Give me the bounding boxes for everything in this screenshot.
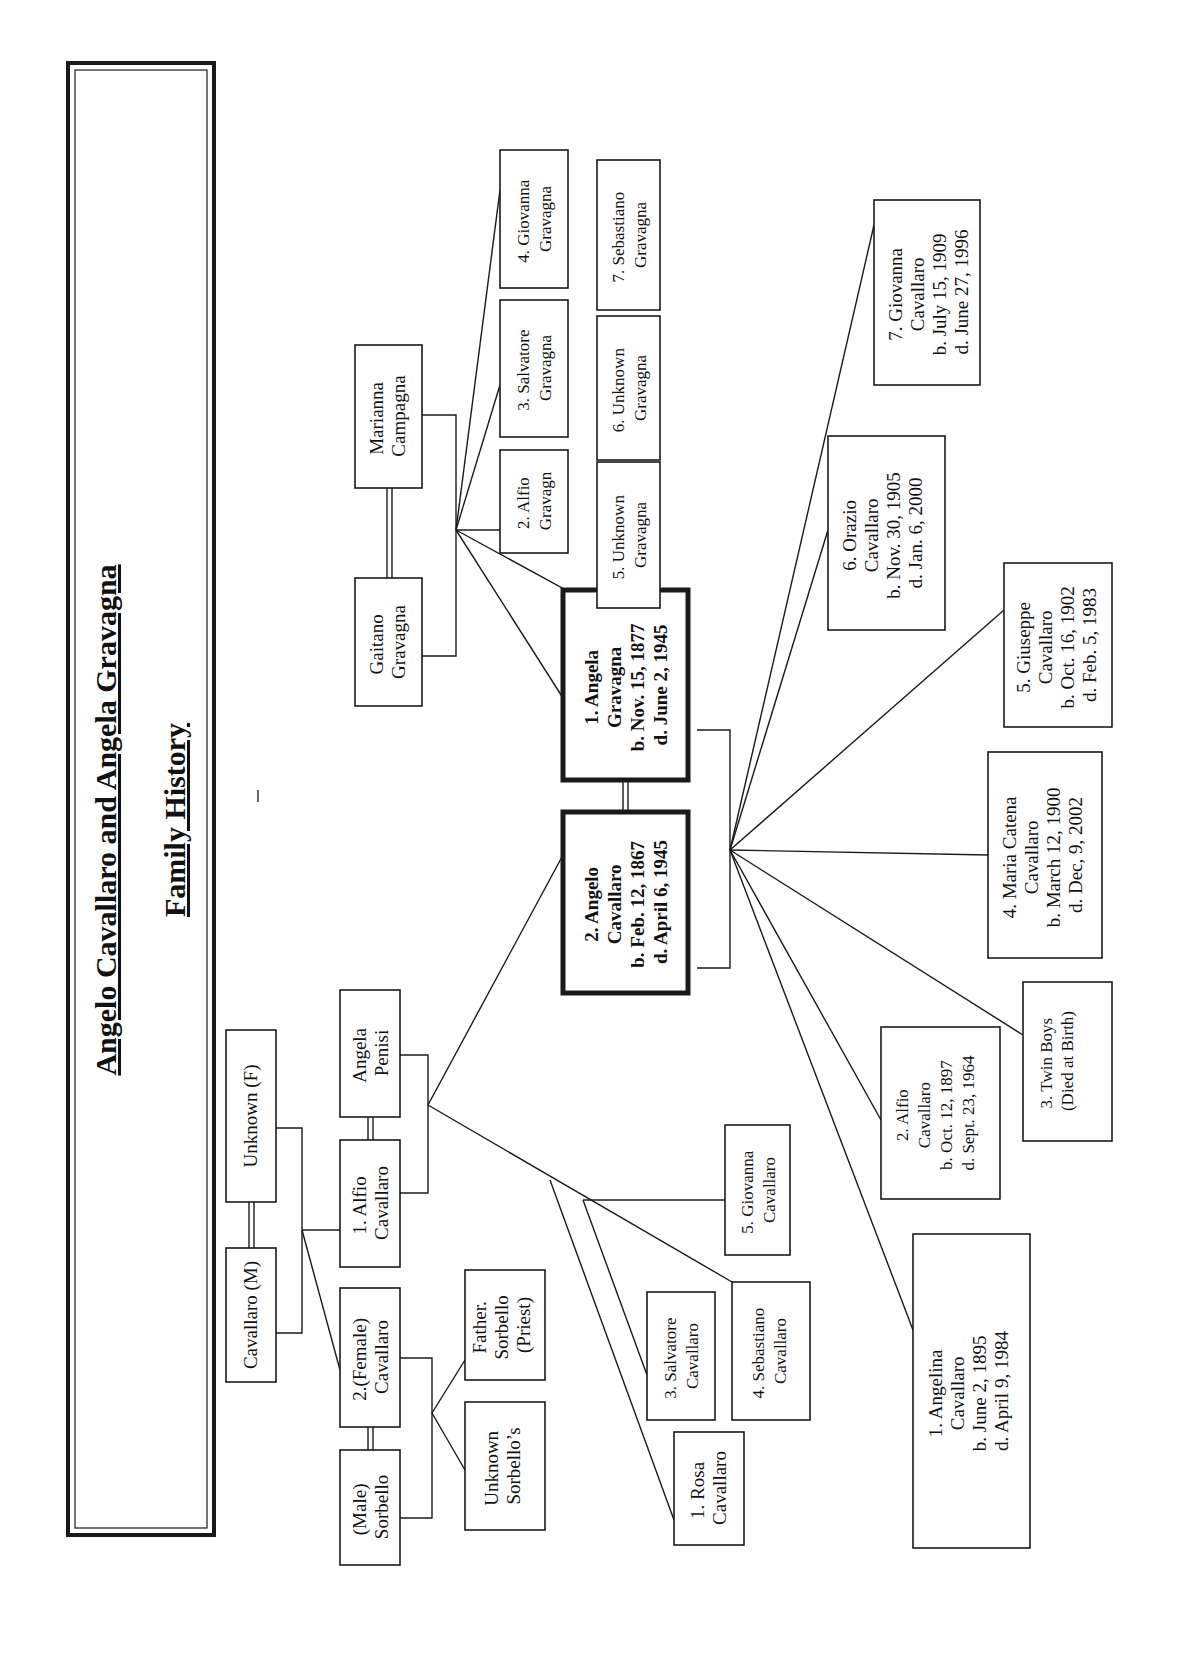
person-angelo-cavallaro[interactable]: 2. Angelo Cavallaro b. Feb. 12, 1867 d. … bbox=[563, 812, 688, 993]
person-giuseppe-cavallaro[interactable]: 5. Giuseppe Cavallaro b. Oct. 16, 1902 d… bbox=[1004, 563, 1112, 727]
person-alfio-cavallaro-jr[interactable]: 2. Alfio Cavallaro b. Oct. 12, 1897 d. S… bbox=[881, 1027, 1000, 1199]
person-father-sorbello[interactable]: Father. Sorbello (Priest) bbox=[465, 1270, 545, 1380]
svg-text:(Male) Sorbello: (Male) Sorbello bbox=[349, 1475, 392, 1539]
person-twin-boys[interactable]: 3. Twin Boys (Died at Birth) bbox=[1023, 982, 1112, 1141]
svg-text:7. Giovanna Cavallaro: 7. Giovanna Cavallaro b. July 15, 1909 d… bbox=[885, 229, 972, 356]
person-alfio-gravagna[interactable]: 2. Alfio Gravagn bbox=[500, 450, 568, 553]
title-frame: Angelo Cavallaro and Angela Gravagna Fam… bbox=[68, 63, 214, 1535]
person-giovanna-cavallaro[interactable]: 7. Giovanna Cavallaro b. July 15, 1909 d… bbox=[874, 200, 980, 385]
svg-text:Gaitano Gravagna: Gaitano Gravagna bbox=[366, 605, 409, 679]
title-main: Angelo Cavallaro and Angela Gravagna bbox=[89, 564, 122, 1075]
svg-text:Unknown Sorbello’s: Unknown Sorbello’s bbox=[481, 1426, 524, 1506]
person-female-cavallaro[interactable]: 2.(Female) Cavallaro bbox=[340, 1288, 400, 1427]
person-maria-catena-cavallaro[interactable]: 4. Maria Catena Cavallaro b. March 12, 1… bbox=[988, 752, 1102, 958]
svg-text:Angela Penisi: Angela Penisi bbox=[349, 1023, 392, 1083]
svg-text:Marianna Campagna: Marianna Campagna bbox=[366, 375, 409, 457]
person-sebastiano-gravagna[interactable]: 7. Sebastiano Gravagna bbox=[597, 160, 660, 310]
person-angela-penisi[interactable]: Angela Penisi bbox=[340, 990, 400, 1117]
person-orazio-cavallaro[interactable]: 6. Orazio Cavallaro b. Nov. 30, 1905 d. … bbox=[828, 436, 945, 630]
person-gaitano-gravagna[interactable]: Gaitano Gravagna bbox=[355, 578, 422, 706]
svg-text:1. Alfio Cavallaro: 1. Alfio Cavallaro bbox=[349, 1166, 392, 1240]
svg-text:2.(Female) Cavallaro: 2.(Female) Cavallaro bbox=[349, 1313, 392, 1401]
svg-text:1. Rosa Cavallaro: 1. Rosa Cavallaro bbox=[687, 1451, 730, 1525]
person-cavallaro-m[interactable]: Cavallaro (M) bbox=[226, 1248, 276, 1382]
person-marianna-campagna[interactable]: Marianna Campagna bbox=[355, 345, 422, 488]
title-sub: Family History bbox=[158, 723, 191, 917]
svg-text:1. Angelina Cavallaro: 1. Angelina Cavallaro b. June 2, 1895 d.… bbox=[925, 1331, 1012, 1452]
person-unknown-sorbellos[interactable]: Unknown Sorbello’s bbox=[465, 1402, 545, 1530]
person-unknown-gravagna-6[interactable]: 6. Unknown Gravagna bbox=[597, 316, 660, 460]
person-angelina-cavallaro[interactable]: 1. Angelina Cavallaro b. June 2, 1895 d.… bbox=[913, 1234, 1030, 1548]
person-unknown-gravagna-5[interactable]: 5. Unknown Gravagna bbox=[597, 462, 660, 608]
person-giovanna-gravagna[interactable]: 4. Giovanna Gravagna bbox=[500, 150, 568, 288]
person-salvatore-gravagna[interactable]: 3. Salvatore Gravagna bbox=[500, 300, 568, 437]
person-alfio-cavallaro-sr[interactable]: 1. Alfio Cavallaro bbox=[340, 1140, 400, 1267]
svg-text:5. Giuseppe Cavallaro: 5. Giuseppe Cavallaro b. Oct. 16, 1902 d… bbox=[1013, 581, 1100, 708]
person-sebastiano-cavallaro[interactable]: 4. Sebastiano Cavallaro bbox=[732, 1282, 810, 1420]
person-male-sorbello[interactable]: (Male) Sorbello bbox=[340, 1450, 400, 1565]
svg-text:Cavallaro (M): Cavallaro (M) bbox=[240, 1261, 262, 1369]
svg-text:4. Maria Catena Cavallar: 4. Maria Catena Cavallaro b. March 12, 1… bbox=[999, 783, 1086, 928]
svg-text:Unknown (F): Unknown (F) bbox=[240, 1065, 262, 1168]
person-salvatore-cavallaro[interactable]: 3. Salvatore Cavallaro bbox=[647, 1292, 715, 1420]
person-unknown-f[interactable]: Unknown (F) bbox=[226, 1030, 276, 1202]
person-rosa-cavallaro[interactable]: 1. Rosa Cavallaro bbox=[674, 1432, 744, 1545]
person-giovanna-cavallaro-alfio[interactable]: 5. Giovanna Cavallaro bbox=[725, 1125, 790, 1255]
family-tree-diagram: Angelo Cavallaro and Angela Gravagna Fam… bbox=[0, 0, 1191, 1668]
svg-text:Father. Sorbello (: Father. Sorbello (Priest) bbox=[469, 1290, 535, 1359]
person-angela-gravagna[interactable]: 1. Angela Gravagna b. Nov. 15, 1877 d. J… bbox=[563, 590, 688, 780]
